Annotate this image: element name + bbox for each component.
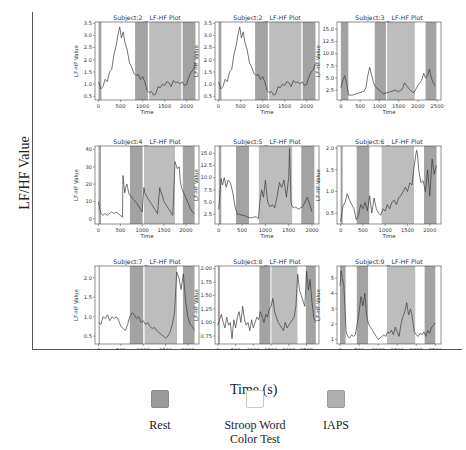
x-axis-label: Time — [381, 233, 396, 239]
x-tick-label: 2000 — [305, 227, 318, 233]
y-tick-label: 12.5 — [322, 38, 334, 44]
band-rest — [218, 266, 220, 344]
y-tick-label: 3.5 — [204, 20, 212, 26]
y-tick-label: 5.0 — [204, 199, 212, 205]
y-tick-label: 5.0 — [326, 75, 334, 81]
y-tick-label: 30 — [85, 164, 92, 170]
y-tick-label: 7.5 — [326, 63, 334, 69]
x-axis-label: Time — [259, 109, 274, 115]
x-tick-label: 1500 — [157, 227, 170, 233]
x-tick-label: 2500 — [429, 347, 442, 351]
band-stroop — [346, 266, 357, 344]
legend-item-rest: Rest — [140, 390, 180, 432]
subplot-title: Subject:2 _ LF-HF Plot — [113, 14, 181, 22]
x-tick-label: 2000 — [282, 347, 295, 351]
legend-label-stroop-line1: Stroop Word — [212, 418, 298, 432]
x-tick-label: 0 — [217, 103, 220, 109]
band-iaps — [145, 266, 178, 344]
x-tick-label: 2000 — [179, 227, 192, 233]
band-stroop — [292, 146, 301, 224]
x-tick-label: 1500 — [401, 227, 414, 233]
y-tick-label: 4 — [331, 290, 335, 296]
subplot-title: Subject:9 _ LF-HF Plot — [355, 258, 423, 266]
band-iaps — [144, 146, 175, 224]
x-tick-label: 2000 — [181, 347, 194, 351]
band-rest — [130, 146, 143, 224]
x-tick-label: 0 — [97, 103, 100, 109]
y-tick-label: 1.5 — [84, 69, 92, 75]
subplot-title: Subject:7 _ LF-HF Plot — [113, 258, 181, 266]
subplot-3: Subject:3 _ LF-HF Plot050010001500200025… — [315, 14, 444, 116]
y-axis-label: LF-HF Value — [315, 44, 321, 76]
band-stroop — [100, 266, 130, 344]
y-tick-label: 2 — [331, 321, 334, 327]
subplot-title: Subject:8 _ LF-HF Plot — [233, 258, 301, 266]
x-tick-label: 2500 — [300, 347, 313, 351]
y-tick-label: 2.5 — [204, 211, 212, 217]
band-stroop — [349, 22, 375, 100]
y-axis-label: LF-HF Value — [193, 168, 199, 200]
x-tick-label: 2000 — [300, 103, 313, 109]
y-tick-label: 1.25 — [200, 306, 212, 312]
y-axis-label: LF-HF Value — [193, 288, 199, 320]
band-stroop — [368, 266, 387, 344]
band-stroop — [222, 146, 236, 224]
x-tick-label: 1000 — [137, 347, 150, 351]
y-tick-label: 1.5 — [84, 294, 92, 300]
band-rest — [219, 146, 222, 224]
y-tick-label: 3.0 — [84, 32, 92, 38]
x-tick-label: 0 — [217, 227, 220, 233]
y-tick-label: 1 — [331, 336, 334, 342]
y-tick-label: 1.0 — [84, 81, 92, 87]
x-tick-label: 1000 — [256, 103, 269, 109]
band-rest — [426, 22, 437, 100]
subplot-2: Subject:2 _ LF-HF Plot05001000150020000.… — [193, 14, 319, 116]
y-tick-label: 1.0 — [326, 188, 334, 194]
band-iaps — [149, 22, 181, 100]
subplot-title: Subject:5 _ LF-HF Plot — [233, 138, 301, 146]
rest-swatch — [151, 390, 169, 408]
y-tick-label: 0.5 — [84, 93, 92, 99]
band-rest — [135, 22, 148, 100]
band-iaps — [259, 146, 293, 224]
x-axis-label: Time — [139, 109, 154, 115]
legend-item-iaps: IAPS — [316, 390, 356, 432]
y-tick-label: 0.75 — [200, 333, 212, 339]
x-tick-label: 500 — [354, 347, 364, 351]
y-tick-label: 1.0 — [204, 81, 212, 87]
x-tick-label: 500 — [231, 347, 241, 351]
band-rest — [301, 146, 314, 224]
band-stroop — [249, 146, 259, 224]
y-axis-label: LF-HF Value — [73, 44, 79, 76]
x-tick-label: 1000 — [136, 227, 149, 233]
y-axis-label: LF-HF Value — [73, 168, 79, 200]
x-tick-label: 2000 — [423, 227, 436, 233]
y-tick-label: 0.5 — [204, 93, 212, 99]
y-tick-label: 20 — [85, 181, 92, 187]
band-rest — [236, 146, 249, 224]
x-tick-label: 500 — [115, 227, 125, 233]
y-tick-label: 7.5 — [204, 187, 212, 193]
x-tick-label: 2000 — [411, 103, 424, 109]
band-rest — [99, 266, 100, 344]
subplot-8: Subject:8 _ LF-HF Plot050010001500200025… — [193, 258, 319, 351]
y-tick-label: 5 — [331, 275, 334, 281]
y-tick-label: 15.0 — [200, 150, 212, 156]
y-tick-label: 2.0 — [84, 57, 92, 63]
legend-label-rest: Rest — [140, 418, 180, 432]
x-tick-label: 1500 — [264, 347, 277, 351]
x-tick-label: 500 — [116, 347, 126, 351]
y-tick-label: 2.0 — [84, 275, 92, 281]
x-tick-label: 0 — [216, 347, 219, 351]
subplot-title: Subject:2 _ LF-HF Plot — [233, 14, 301, 22]
y-tick-label: 3.5 — [84, 20, 92, 26]
y-tick-label: 2.0 — [326, 145, 334, 151]
x-tick-label: 0 — [339, 227, 342, 233]
x-tick-label: 1500 — [392, 103, 405, 109]
y-axis-label: LF-HF Value — [315, 168, 321, 200]
y-tick-label: 1.5 — [204, 69, 212, 75]
x-tick-label: 500 — [116, 103, 126, 109]
x-tick-label: 1000 — [259, 227, 272, 233]
band-rest — [259, 266, 270, 344]
x-tick-label: 0 — [338, 347, 341, 351]
